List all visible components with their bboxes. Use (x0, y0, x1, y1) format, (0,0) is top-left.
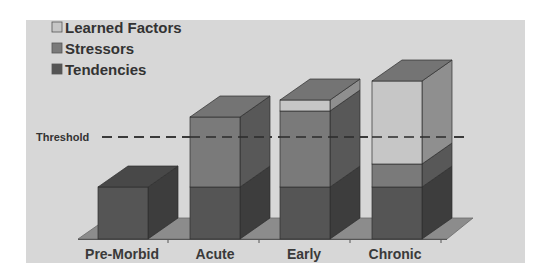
bar-segment-tendencies (190, 187, 240, 239)
legend-item-stressors: Stressors (52, 40, 134, 57)
bar-chronic (372, 60, 452, 239)
legend-swatch (52, 43, 62, 53)
legend-swatch (52, 64, 62, 74)
bar-segment-tendencies (372, 187, 422, 239)
legend-label: Stressors (65, 40, 134, 57)
bar-segment-tendencies (98, 187, 148, 239)
legend-item-learned-factors: Learned Factors (52, 19, 182, 36)
bar-segment-stressors (280, 111, 330, 187)
legend-swatch (52, 22, 62, 32)
stacked-3d-bar-chart: Threshold Learned FactorsStressorsTenden… (0, 0, 551, 274)
bar-segment-stressors (190, 117, 240, 187)
category-label: Pre-Morbid (85, 246, 159, 262)
legend-item-tendencies: Tendencies (52, 61, 146, 78)
legend-label: Tendencies (65, 61, 146, 78)
category-label: Acute (196, 246, 235, 262)
category-label: Early (287, 246, 321, 262)
threshold-label: Threshold (36, 131, 89, 143)
bar-segment-stressors (372, 164, 422, 187)
legend-label: Learned Factors (65, 19, 182, 36)
bar-segment-tendencies (280, 187, 330, 239)
bar-acute (190, 96, 270, 239)
category-label: Chronic (369, 246, 422, 262)
bar-segment-learned-factors (280, 100, 330, 111)
bar-early (280, 79, 360, 239)
bar-segment-learned-factors (372, 81, 422, 164)
